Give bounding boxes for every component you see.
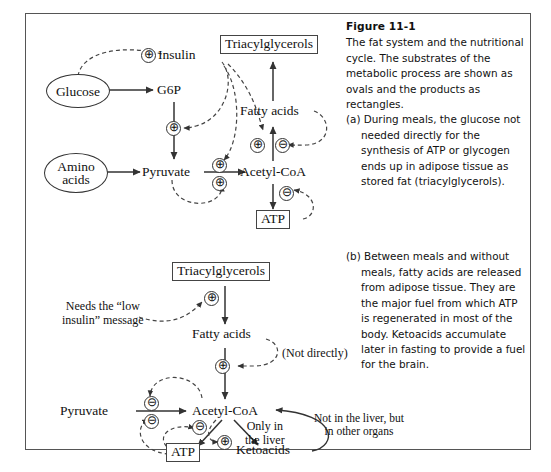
node-atp-a: ATP [256, 210, 290, 229]
sign-b-pyr-minus-bottom: ⊖ [144, 414, 159, 429]
node-glucose-label: Glucose [56, 85, 100, 98]
figure-frame: Glucose G6P ⊕ Insulin Amino acids Pyruva… [25, 13, 531, 450]
node-fatty-acids-label: Fatty acids [240, 103, 299, 118]
node-atp-b: ATP [166, 443, 200, 462]
dashed-b-acoa-to-pyruvate-minus-top [150, 377, 202, 398]
note-needs-low-insulin-line2: insulin” message [62, 313, 144, 327]
figure-intro-text: The fat system and the nutritional cycle… [346, 35, 528, 112]
node-ketoacids: Ketoacids [236, 443, 290, 456]
sign-pyr-acoa-plus-bottom: ⊕ [212, 176, 227, 191]
note-needs-low-insulin: Needs the “low insulin” message [62, 299, 144, 327]
figure-number: Figure 11-1 [346, 19, 528, 34]
sign-fatty-plus: ⊕ [250, 138, 265, 153]
note-not-directly: (Not directly) [282, 347, 348, 360]
figure-caption: Figure 11-1 The fat system and the nutri… [346, 19, 528, 449]
node-amino-acids-label-2: acids [62, 173, 90, 186]
node-pyruvate: Pyruvate [142, 165, 190, 178]
node-amino-acids: Amino acids [44, 153, 108, 193]
sign-atp-minus-a: ⊖ [279, 186, 294, 201]
node-triacylglycerols-a: Triacylglycerols [220, 35, 318, 54]
sign-b-atp-minus: ⊖ [192, 420, 207, 435]
dashed-insulin-to-g6p-arrow [184, 62, 228, 128]
diagram-area: Glucose G6P ⊕ Insulin Amino acids Pyruva… [26, 14, 342, 451]
node-acetyl-coa-label: Acetyl-CoA [240, 164, 306, 179]
sign-insulin-plus: ⊕ [141, 48, 156, 63]
sign-b-keto-plus: ⊕ [217, 435, 232, 450]
dashed-b-needs-insulin-note [139, 302, 202, 321]
node-acetyl-coa: Acetyl-CoA [240, 165, 306, 178]
node-triacylglycerols-b-label: Triacylglycerols [177, 263, 265, 278]
node-pyruvate-label: Pyruvate [142, 164, 190, 179]
node-acetyl-coa-b-label: Acetyl-CoA [192, 403, 258, 418]
note-only-in-liver-line1: Only in [247, 419, 283, 433]
node-glucose: Glucose [46, 74, 110, 108]
node-pyruvate-b: Pyruvate [60, 404, 108, 417]
node-fatty-acids-b: Fatty acids [192, 327, 251, 340]
dashed-insulin-to-pyr-acoa [224, 66, 237, 160]
node-atp-b-label: ATP [171, 444, 195, 459]
node-triacylglycerols-b: Triacylglycerols [172, 262, 270, 281]
figure-part-b-text: (b) Between meals and without meals, fat… [346, 249, 528, 372]
node-insulin: Insulin [158, 48, 196, 61]
node-g6p-label: G6P [157, 82, 181, 97]
note-not-directly-label: (Not directly) [282, 346, 348, 360]
node-fatty-acids: Fatty acids [240, 104, 299, 117]
sign-g6p-pyruvate-plus: ⊕ [166, 121, 181, 136]
node-triacylglycerols-a-label: Triacylglycerols [225, 36, 313, 51]
note-needs-low-insulin-line1: Needs the “low [66, 299, 140, 313]
sign-pyr-acoa-plus-top: ⊕ [212, 158, 227, 173]
sign-b-tag-plus: ⊕ [204, 291, 219, 306]
sign-b-pyr-minus-top: ⊖ [144, 396, 159, 411]
node-acetyl-coa-b: Acetyl-CoA [192, 404, 258, 417]
node-fatty-acids-b-label: Fatty acids [192, 326, 251, 341]
dashed-insulin-to-fattyacids [228, 64, 263, 130]
node-g6p: G6P [157, 83, 181, 96]
node-pyruvate-b-label: Pyruvate [60, 403, 108, 418]
node-insulin-label: Insulin [158, 47, 196, 62]
node-ketoacids-label: Ketoacids [236, 442, 290, 457]
sign-b-fatty-plus: ⊕ [215, 359, 230, 374]
node-atp-a-label: ATP [261, 211, 285, 226]
dashed-atp-feedback [294, 190, 313, 219]
dashed-b-not-directly-loop [238, 339, 278, 366]
sign-fatty-minus: ⊖ [275, 138, 290, 153]
figure-part-a-text: (a) During meals, the glucose not needed… [346, 112, 528, 189]
